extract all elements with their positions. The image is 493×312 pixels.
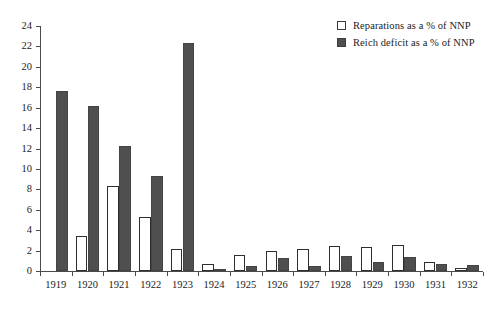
y-tick-18: 18 — [36, 87, 40, 88]
y-tick-mark — [36, 149, 40, 150]
x-tick-label-1932: 1932 — [447, 278, 487, 291]
bar-reparations-1927 — [297, 249, 309, 271]
y-tick-mark — [36, 26, 40, 27]
x-tick-mark — [420, 272, 421, 276]
x-tick-mark — [325, 272, 326, 276]
bar-deficit-1929 — [373, 262, 385, 271]
bar-reparations-1925 — [234, 255, 246, 271]
y-tick-14: 14 — [36, 128, 40, 129]
y-tick-label: 24 — [22, 19, 33, 32]
x-tick-mark — [135, 272, 136, 276]
y-axis-line — [40, 26, 41, 272]
bar-reparations-1928 — [329, 246, 341, 271]
bar-chart: Reparations as a % of NNP Reich deficit … — [0, 0, 493, 312]
x-tick-mark — [198, 272, 199, 276]
y-tick-16: 16 — [36, 108, 40, 109]
x-tick-mark — [167, 272, 168, 276]
y-tick-mark — [36, 87, 40, 88]
y-tick-8: 8 — [36, 189, 40, 190]
y-tick-label: 20 — [22, 60, 33, 73]
bar-deficit-1924 — [214, 269, 226, 271]
y-tick-24: 24 — [36, 26, 40, 27]
bar-reparations-1929 — [361, 247, 373, 272]
y-tick-label: 0 — [27, 264, 32, 277]
bar-reparations-1922 — [139, 217, 151, 271]
y-tick-mark — [36, 230, 40, 231]
x-tick-mark — [262, 272, 263, 276]
y-tick-label: 8 — [27, 182, 32, 195]
y-tick-label: 14 — [22, 121, 33, 134]
y-tick-mark — [36, 169, 40, 170]
x-tick-mark — [72, 272, 73, 276]
x-tick-mark — [230, 272, 231, 276]
x-tick-mark — [388, 272, 389, 276]
y-tick-label: 6 — [27, 203, 32, 216]
bar-reparations-1921 — [107, 186, 119, 271]
y-tick-22: 22 — [36, 46, 40, 47]
y-tick-label: 16 — [22, 101, 33, 114]
y-tick-mark — [36, 210, 40, 211]
x-tick-mark — [356, 272, 357, 276]
bar-deficit-1923 — [183, 43, 195, 271]
y-tick-12: 12 — [36, 149, 40, 150]
bar-deficit-1925 — [246, 266, 258, 271]
y-tick-4: 4 — [36, 230, 40, 231]
bar-reparations-1932 — [455, 268, 467, 271]
y-tick-mark — [36, 108, 40, 109]
bar-deficit-1927 — [309, 266, 321, 271]
y-tick-mark — [36, 67, 40, 68]
x-tick-mark — [293, 272, 294, 276]
bar-reparations-1920 — [76, 236, 88, 271]
y-tick-2: 2 — [36, 251, 40, 252]
y-tick-label: 10 — [22, 162, 33, 175]
bar-reparations-1931 — [424, 262, 436, 271]
bar-deficit-1931 — [436, 264, 448, 271]
y-tick-label: 12 — [22, 142, 33, 155]
bar-deficit-1919 — [56, 91, 68, 271]
y-tick-mark — [36, 46, 40, 47]
bar-deficit-1921 — [119, 146, 131, 271]
y-tick-label: 4 — [27, 223, 32, 236]
bar-deficit-1930 — [404, 257, 416, 271]
x-tick-mark — [40, 272, 41, 276]
bar-deficit-1926 — [278, 258, 290, 271]
x-tick-mark — [483, 272, 484, 276]
bar-reparations-1923 — [171, 249, 183, 271]
bar-deficit-1922 — [151, 176, 163, 271]
bar-deficit-1928 — [341, 256, 353, 271]
x-tick-mark — [103, 272, 104, 276]
y-tick-mark — [36, 251, 40, 252]
y-tick-mark — [36, 128, 40, 129]
bar-reparations-1926 — [266, 251, 278, 271]
plot-area: 024681012141618202224 191919201921192219… — [40, 26, 483, 272]
bar-reparations-1924 — [202, 264, 214, 271]
y-tick-10: 10 — [36, 169, 40, 170]
y-tick-20: 20 — [36, 67, 40, 68]
y-tick-6: 6 — [36, 210, 40, 211]
bar-deficit-1920 — [88, 106, 100, 271]
bar-deficit-1932 — [467, 265, 479, 271]
y-tick-label: 2 — [27, 244, 32, 257]
x-tick-mark — [451, 272, 452, 276]
y-tick-label: 22 — [22, 39, 33, 52]
bar-reparations-1930 — [392, 245, 404, 271]
y-tick-mark — [36, 189, 40, 190]
y-tick-label: 18 — [22, 80, 33, 93]
